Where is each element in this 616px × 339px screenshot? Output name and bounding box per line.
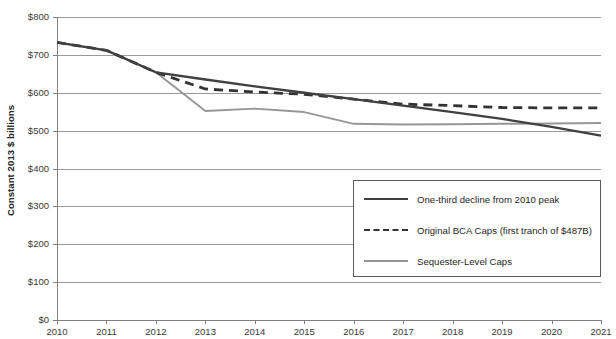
- x-axis-tick-label: 2011: [78, 327, 134, 337]
- legend-item-one-third-decline: One-third decline from 2010 peak: [354, 186, 602, 212]
- x-axis-tick-label: 2013: [177, 327, 233, 337]
- x-axis-tick-label: 2016: [326, 327, 382, 337]
- x-axis-tick-label: 2018: [425, 327, 481, 337]
- legend-item-original-bca-caps: Original BCA Caps (first tranch of $487B…: [354, 217, 602, 243]
- y-axis-tick-label: $800: [9, 12, 49, 22]
- x-axis-tick-label: 2010: [29, 327, 85, 337]
- x-axis-tick-label: 2014: [227, 327, 283, 337]
- legend-label-sequester-level-caps: Sequester-Level Caps: [417, 256, 512, 267]
- y-axis-tick-label: $0: [9, 315, 49, 325]
- legend-line-swatch-solid-gray: [364, 254, 408, 268]
- x-axis-tick-label: 2020: [524, 327, 580, 337]
- series-line-2: [57, 42, 601, 124]
- y-axis-tick-label: $200: [9, 239, 49, 249]
- legend-label-one-third-decline: One-third decline from 2010 peak: [417, 194, 559, 205]
- x-axis-tick-label: 2012: [128, 327, 184, 337]
- x-axis-tick-label: 2015: [276, 327, 332, 337]
- legend-item-sequester-level-caps: Sequester-Level Caps: [354, 248, 602, 274]
- series-line-0: [57, 42, 601, 135]
- y-axis-tick-label: $100: [9, 277, 49, 287]
- legend-line-swatch-dashed-dark: [364, 223, 408, 237]
- legend-label-original-bca-caps: Original BCA Caps (first tranch of $487B…: [417, 225, 592, 236]
- x-axis-tick-label: 2019: [474, 327, 530, 337]
- series-line-1: [57, 42, 601, 108]
- chart-legend: One-third decline from 2010 peak Origina…: [353, 180, 601, 277]
- x-axis-tick-label: 2017: [375, 327, 431, 337]
- y-axis-tick-label: $400: [9, 164, 49, 174]
- y-axis-tick-label: $300: [9, 201, 49, 211]
- x-axis-tick-label: 2021: [573, 327, 616, 337]
- y-axis-tick-label: $600: [9, 88, 49, 98]
- y-axis-tick-label: $500: [9, 126, 49, 136]
- y-axis-tick-label: $700: [9, 50, 49, 60]
- legend-line-swatch-solid-dark: [364, 192, 408, 206]
